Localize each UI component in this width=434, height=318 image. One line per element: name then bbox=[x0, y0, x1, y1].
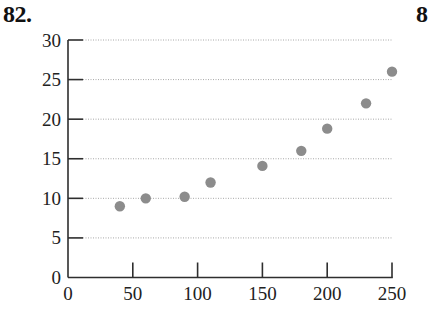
x-axis-ticks: 050100150200250 bbox=[63, 263, 406, 304]
data-point bbox=[387, 66, 397, 76]
data-point bbox=[141, 193, 151, 203]
x-tick-label: 50 bbox=[123, 283, 142, 304]
data-point bbox=[296, 146, 306, 156]
data-point bbox=[179, 192, 189, 202]
data-point bbox=[322, 123, 332, 133]
x-tick-label: 200 bbox=[313, 283, 342, 304]
scatter-plot: 051015202530 050100150200250 bbox=[0, 0, 434, 318]
y-axis-ticks: 051015202530 bbox=[42, 30, 83, 289]
data-points bbox=[115, 66, 398, 211]
x-tick-label: 150 bbox=[248, 283, 277, 304]
data-point bbox=[361, 98, 371, 108]
y-tick-label: 25 bbox=[42, 69, 61, 90]
data-point bbox=[257, 161, 267, 171]
y-tick-label: 15 bbox=[42, 148, 61, 169]
x-tick-label: 100 bbox=[183, 283, 212, 304]
y-tick-label: 10 bbox=[42, 188, 61, 209]
x-tick-label: 0 bbox=[63, 283, 73, 304]
y-tick-label: 20 bbox=[42, 109, 61, 130]
y-tick-label: 30 bbox=[42, 30, 61, 51]
y-tick-label: 5 bbox=[52, 227, 62, 248]
axes bbox=[68, 40, 393, 278]
data-point bbox=[205, 177, 215, 187]
gridlines bbox=[83, 40, 393, 238]
y-tick-label: 0 bbox=[52, 267, 62, 288]
data-point bbox=[115, 201, 125, 211]
x-tick-label: 250 bbox=[378, 283, 407, 304]
